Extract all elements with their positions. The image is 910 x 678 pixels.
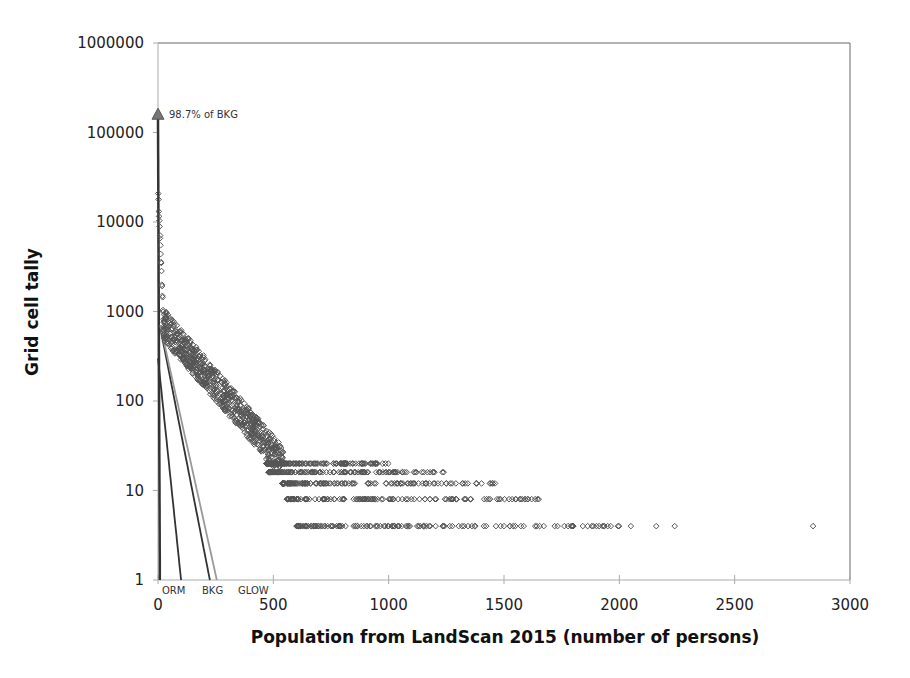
y-tick-label: 100 xyxy=(115,392,144,410)
annotation: 98.7% of BKG xyxy=(152,108,238,120)
plot-frame xyxy=(158,43,850,580)
triangle-marker-icon xyxy=(152,108,164,119)
curve-label: ORM xyxy=(162,585,185,596)
curve-label: GLOW xyxy=(238,585,269,596)
x-tick-label: 0 xyxy=(153,596,163,614)
y-tick-label: 1 xyxy=(134,571,144,589)
x-tick-label: 2500 xyxy=(716,596,754,614)
x-tick-label: 1500 xyxy=(485,596,523,614)
annotation-text: 98.7% of BKG xyxy=(169,109,238,120)
x-tick-label: 1000 xyxy=(370,596,408,614)
model-curves: ORMBKGGLOW xyxy=(158,114,269,596)
x-tick-label: 500 xyxy=(259,596,288,614)
y-tick-label: 1000000 xyxy=(77,34,144,52)
y-tick-label: 100000 xyxy=(87,124,144,142)
y-axis-ticks: 1101001000100001000001000000 xyxy=(77,34,158,589)
curve-label: BKG xyxy=(202,585,223,596)
y-axis-label: Grid cell tally xyxy=(22,248,42,376)
data-points xyxy=(155,191,815,529)
x-tick-label: 2000 xyxy=(600,596,638,614)
y-tick-label: 1000 xyxy=(106,303,144,321)
x-axis-label: Population from LandScan 2015 (number of… xyxy=(251,627,760,647)
x-tick-label: 3000 xyxy=(831,596,869,614)
scatter-chart: 1101001000100001000001000000 05001000150… xyxy=(0,0,910,678)
y-tick-label: 10000 xyxy=(96,213,144,231)
y-tick-label: 10 xyxy=(125,482,144,500)
